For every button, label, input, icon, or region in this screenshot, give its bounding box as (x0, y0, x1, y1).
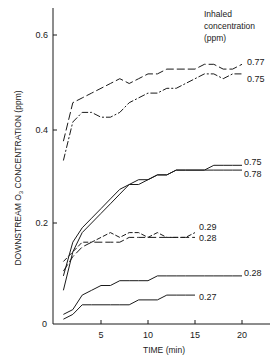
series-line-0.75 (63, 74, 242, 161)
y-tick-label: 0.4 (35, 125, 48, 135)
end-labels: 0.77 0.75 0.75 0.78 0.29 0.28 0.28 0.27 (199, 57, 265, 302)
x-axis-title: TIME (min) (143, 345, 185, 355)
series-label-0.75-dashed: 0.75 (247, 74, 265, 84)
svg-text:(ppm): (ppm) (204, 33, 226, 43)
series-label-0.78: 0.78 (244, 169, 262, 179)
series-label-0.29: 0.29 (199, 222, 217, 232)
y-tick-label: 0.2 (35, 218, 48, 228)
y-tick-label: 0 (42, 319, 47, 329)
svg-text:concentration: concentration (204, 21, 255, 31)
x-tick-label: 10 (143, 330, 153, 340)
series-layer (63, 64, 242, 319)
series-line-0.77 (63, 64, 242, 141)
y-axis-title: DOWNSTREAM O3 CONCENTRATION (ppm) (13, 90, 24, 265)
x-tick-label: 15 (190, 330, 200, 340)
legend-title: Inhaled concentration (ppm) (204, 9, 255, 43)
series-label-0.75-solid: 0.75 (244, 157, 262, 167)
y-ticks: 0.6 0.4 0.2 0 (35, 30, 57, 329)
series-label-0.28-dashed: 0.28 (199, 233, 217, 243)
series-label-0.77: 0.77 (247, 57, 265, 67)
series-label-0.28-solid: 0.28 (244, 268, 262, 278)
x-ticks: 5 10 15 20 (98, 320, 247, 340)
x-tick-label: 20 (237, 330, 247, 340)
series-line-0.27 (63, 295, 195, 319)
series-line-0.75 (63, 165, 242, 276)
x-tick-label: 5 (98, 330, 103, 340)
svg-text:Inhaled: Inhaled (204, 9, 232, 19)
ozone-chart: 0.6 0.4 0.2 0 5 10 15 20 TIME (min) DOWN… (0, 0, 276, 362)
y-tick-label: 0.6 (35, 30, 48, 40)
series-line-0.28 (63, 237, 195, 271)
series-label-0.27: 0.27 (199, 292, 217, 302)
